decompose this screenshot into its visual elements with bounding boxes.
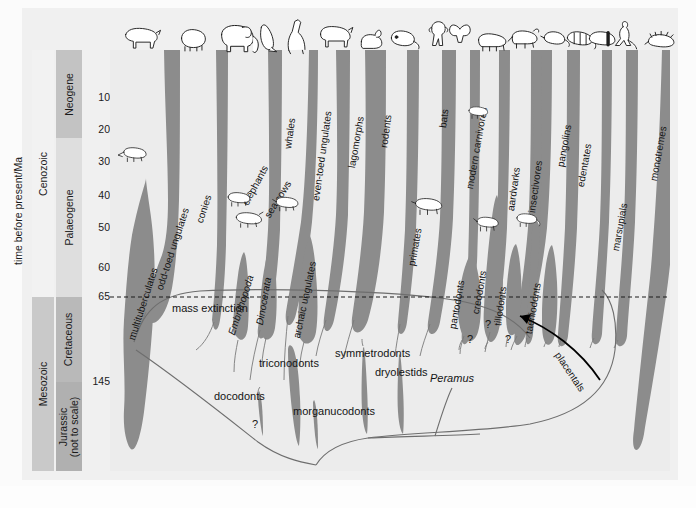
period-jurassic-label: Jurassic (not to scale) xyxy=(58,396,80,457)
axis-tick-60: 60 xyxy=(82,261,110,273)
period-jurassic-line2: (not to scale) xyxy=(68,396,80,457)
period-cretaceous-label: Cretaceous xyxy=(64,313,75,367)
era-cenozoic-label: Cenozoic xyxy=(37,152,49,196)
spindle-symmetrodonts xyxy=(362,347,368,434)
spindle-edentates xyxy=(616,50,638,346)
axis-tick-20: 20 xyxy=(82,123,110,135)
period-column: Neogene Palaeogene Cretaceous Jurassic (… xyxy=(56,50,82,471)
mesozoic-label-dryolestids: dryolestids xyxy=(375,366,428,378)
mesozoic-label-peramus: Peramus xyxy=(430,372,474,384)
spindle-whales xyxy=(324,50,350,331)
era-mesozoic: Mesozoic xyxy=(32,297,54,471)
mesozoic-label-docodonts: docodonts xyxy=(214,390,265,402)
axis-tick-10: 10 xyxy=(82,91,110,103)
axis-scale: 10203040506065145 xyxy=(82,50,110,471)
y-axis-title: time before present/Ma xyxy=(12,131,24,291)
diagram-root: time before present/Ma Cenozoic Mesozoic… xyxy=(0,0,696,508)
qm-docodonts: ? xyxy=(252,418,258,430)
qm-taeniodonts: ? xyxy=(505,333,511,345)
era-cenozoic: Cenozoic xyxy=(32,50,54,297)
axis-tick-50: 50 xyxy=(82,221,110,233)
axis-tick-30: 30 xyxy=(82,155,110,167)
mesozoic-label-morganucodonts: morganucodonts xyxy=(293,405,375,417)
qm-boundary-left: ? xyxy=(467,333,473,345)
period-neogene: Neogene xyxy=(56,50,82,138)
mesozoic-label-symmetrodonts: symmetrodonts xyxy=(335,347,410,359)
mesozoic-label-triconodonts: triconodonts xyxy=(259,357,319,369)
period-jurassic: Jurassic (not to scale) xyxy=(56,382,82,471)
era-mesozoic-label: Mesozoic xyxy=(37,362,49,406)
spindle-marsupials xyxy=(633,50,670,450)
plot-area: multituberculatesodd-toed ungulatesconie… xyxy=(110,50,670,471)
spindle-shapes xyxy=(123,50,670,458)
axis-tick-40: 40 xyxy=(82,189,110,201)
period-neogene-label: Neogene xyxy=(64,73,75,116)
qm-tillodonts: ? xyxy=(485,318,491,330)
period-cretaceous: Cretaceous xyxy=(56,297,82,382)
spindle-taeniodonts xyxy=(542,245,557,345)
spindle-insectivores xyxy=(558,50,580,346)
period-palaeogene-label: Palaeogene xyxy=(64,189,75,245)
spindle-rodents xyxy=(428,50,456,334)
era-column: Cenozoic Mesozoic xyxy=(32,50,54,471)
period-jurassic-line1: Jurassic xyxy=(57,407,69,446)
axis-tick-145: 145 xyxy=(82,375,110,387)
spindle-conies xyxy=(212,50,228,330)
spindle-lagomorphs xyxy=(398,50,419,334)
period-palaeogene: Palaeogene xyxy=(56,138,82,297)
spindles-svg xyxy=(110,50,670,471)
axis-tick-65: 65 xyxy=(82,290,110,302)
mass-extinction-label: mass extinction xyxy=(172,302,248,314)
spindle-even-toed-ungulates xyxy=(352,50,386,333)
